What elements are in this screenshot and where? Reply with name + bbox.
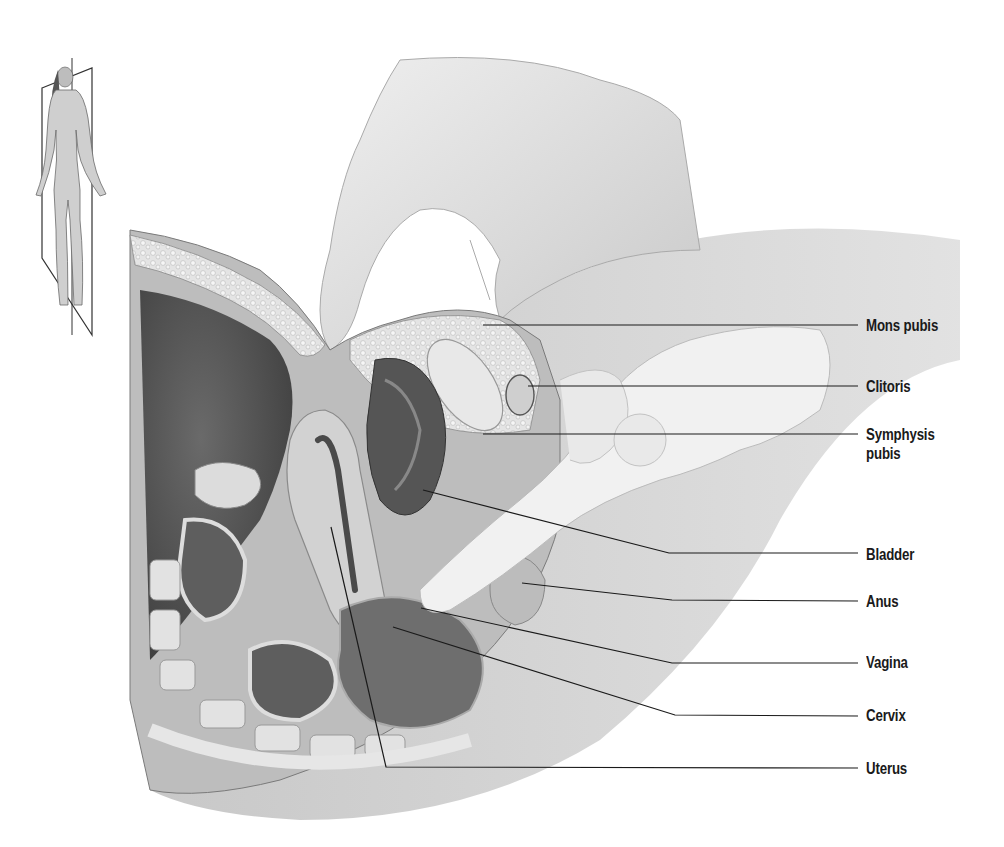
- label-bladder: Bladder: [866, 545, 914, 564]
- label-clitoris: Clitoris: [866, 377, 910, 396]
- pelvis-illustration: [0, 0, 1004, 847]
- label-symphysis-pubis: Symphysis pubis: [866, 425, 935, 463]
- anatomy-diagram: Mons pubis Clitoris Symphysis pubis Blad…: [0, 0, 1004, 847]
- label-symphysis-line-1: Symphysis: [866, 425, 935, 444]
- label-uterus: Uterus: [866, 759, 907, 778]
- label-cervix: Cervix: [866, 706, 906, 725]
- label-symphysis-line-2: pubis: [866, 444, 935, 463]
- label-vagina: Vagina: [866, 653, 908, 672]
- orientation-figure: [36, 58, 106, 335]
- label-anus: Anus: [866, 592, 899, 611]
- label-mons-pubis: Mons pubis: [866, 316, 938, 335]
